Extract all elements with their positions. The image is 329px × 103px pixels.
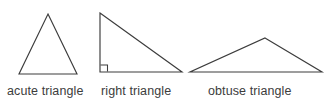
obtuse-triangle-label: obtuse triangle	[208, 84, 292, 98]
right-triangle-shape	[100, 13, 182, 72]
triangle-types-figure: acute triangle right triangle obtuse tri…	[0, 0, 329, 103]
acute-triangle-shape	[19, 14, 77, 74]
right-triangle-label: right triangle	[101, 84, 171, 98]
acute-triangle-label: acute triangle	[7, 84, 83, 98]
obtuse-triangle-shape	[190, 38, 322, 72]
right-angle-marker-icon	[101, 65, 108, 72]
